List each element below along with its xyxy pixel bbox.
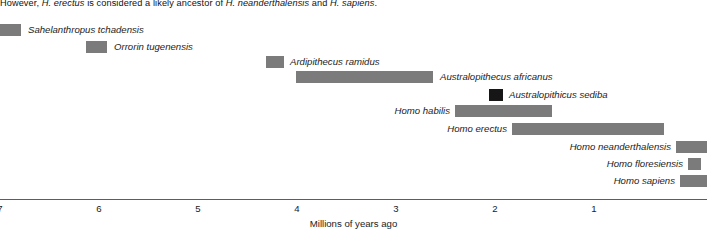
species-range-bar (296, 71, 433, 83)
species-range-bar (455, 105, 552, 117)
species-label: Sahelanthropus tchadensis (28, 23, 144, 37)
x-tick-label: 5 (188, 202, 208, 215)
species-label: Orrorin tugenensis (114, 40, 193, 54)
x-tick-label: 1 (584, 202, 604, 215)
hominin-timeline-figure: However, H. erectus is considered a like… (0, 0, 707, 231)
caption-species-h-sapiens: H. sapiens (330, 0, 374, 8)
species-range-bar (86, 41, 107, 53)
timeline-row: Orrorin tugenensis (0, 40, 707, 55)
chart-plot-area: Sahelanthropus tchadensisOrrorin tugenen… (0, 16, 707, 194)
species-range-bar (266, 56, 284, 68)
x-tick-label: 4 (287, 202, 307, 215)
species-range-bar (489, 89, 503, 101)
species-range-bar (0, 24, 21, 36)
caption-species-h-erectus: H. erectus (42, 0, 85, 8)
timeline-row: Australopithecus africanus (0, 70, 707, 85)
x-axis-title: Millions of years ago (0, 217, 707, 230)
x-axis-line (0, 199, 707, 200)
timeline-row: Homo floresiensis (0, 157, 707, 172)
timeline-row: Homo habilis (0, 104, 707, 119)
species-range-bar (676, 141, 707, 153)
x-tick-label: 2 (485, 202, 505, 215)
timeline-row: Homo sapiens (0, 174, 707, 189)
x-tick-label: 6 (89, 202, 109, 215)
caption-species-h-neanderthalensis: H. neanderthalensis (226, 0, 309, 8)
caption-text-and: and (309, 0, 330, 8)
x-tick-label: 7 (0, 202, 10, 215)
species-range-bar (512, 123, 664, 135)
timeline-row: Australopithicus sediba (0, 88, 707, 103)
species-label: Homo neanderthalensis (570, 140, 671, 154)
x-tick-label: 3 (386, 202, 406, 215)
caption-text-mid: is considered a likely ancestor of (84, 0, 225, 8)
timeline-row: Homo erectus (0, 122, 707, 137)
species-range-bar (680, 175, 707, 187)
caption-text-prefix: However, (0, 0, 42, 8)
timeline-row: Ardipithecus ramidus (0, 55, 707, 70)
figure-caption: However, H. erectus is considered a like… (0, 0, 707, 9)
species-range-bar (688, 158, 701, 170)
species-label: Australopithecus africanus (440, 70, 553, 84)
species-label: Homo erectus (447, 122, 507, 136)
species-label: Homo habilis (395, 104, 450, 118)
timeline-row: Homo neanderthalensis (0, 140, 707, 155)
species-label: Homo floresiensis (607, 157, 683, 171)
timeline-row: Sahelanthropus tchadensis (0, 23, 707, 38)
caption-text-end: . (374, 0, 377, 8)
species-label: Ardipithecus ramidus (290, 55, 380, 69)
species-label: Homo sapiens (614, 174, 675, 188)
species-label: Australopithicus sediba (509, 88, 608, 102)
